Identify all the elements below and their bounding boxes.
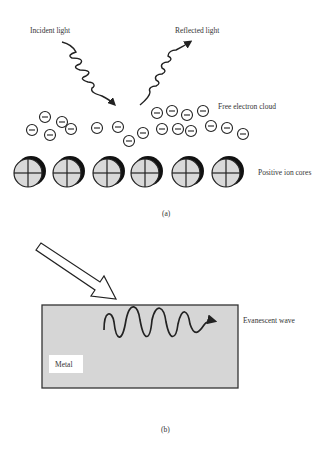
electron-icon: [182, 110, 193, 121]
electron-icon: [152, 108, 163, 119]
electron-icon: [238, 129, 249, 140]
ion-core-icon: [93, 156, 125, 187]
caption-b: (b): [161, 425, 170, 434]
electron-icon: [45, 130, 56, 141]
incident-beam-arrow-icon: [36, 243, 116, 299]
ion-core-icon: [53, 156, 85, 187]
ion-core-icon: [172, 156, 204, 187]
panel-a: Incident light Reflected light Free elec…: [14, 26, 311, 218]
electron-icon: [138, 128, 149, 139]
electron-cloud: [27, 106, 249, 147]
positive-ion-cores-label: Positive ion cores: [258, 168, 311, 177]
panel-b: Evanescent wave Metal (b): [36, 243, 296, 434]
electron-icon: [206, 121, 217, 132]
ion-core-icon: [212, 156, 244, 187]
electron-icon: [92, 123, 103, 134]
electron-icon: [40, 112, 51, 123]
reflected-light-label: Reflected light: [175, 26, 220, 35]
electron-icon: [66, 124, 77, 135]
electron-icon: [157, 124, 168, 135]
electron-icon: [124, 136, 135, 147]
free-electron-cloud-label: Free electron cloud: [218, 102, 276, 111]
evanescent-wave-label: Evanescent wave: [243, 316, 296, 325]
electron-icon: [198, 106, 209, 117]
electron-icon: [27, 125, 38, 136]
reflected-light-wave-icon: [140, 42, 190, 105]
electron-icon: [222, 123, 233, 134]
metal-label: Metal: [55, 360, 73, 369]
ion-core-icon: [14, 156, 46, 187]
caption-a: (a): [162, 209, 171, 218]
diagram-canvas: Incident light Reflected light Free elec…: [0, 0, 336, 450]
ion-cores: [14, 156, 244, 187]
electron-icon: [113, 122, 124, 133]
ion-core-icon: [131, 156, 163, 187]
incident-light-label: Incident light: [30, 26, 71, 35]
incident-light-wave-icon: [62, 42, 114, 104]
electron-icon: [167, 106, 178, 117]
electron-icon: [186, 126, 197, 137]
electron-icon: [173, 124, 184, 135]
